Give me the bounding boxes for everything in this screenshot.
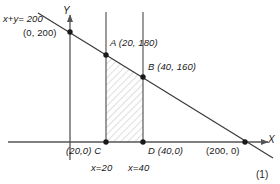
point-c	[103, 139, 108, 144]
point-b	[140, 74, 145, 79]
label-x-intercept: (200, 0)	[206, 146, 240, 156]
x-axis-label: X	[268, 135, 275, 145]
equation-label: x+y= 200	[3, 14, 43, 24]
label-point-a: A (20, 180)	[110, 38, 158, 48]
label-point-d: D (40,0)	[148, 146, 183, 156]
y-axis-label: Y	[63, 6, 70, 16]
label-y-intercept: (0, 200)	[23, 28, 57, 38]
figure-caption: (1)	[256, 170, 268, 180]
point-y-intercept	[67, 29, 72, 34]
graph-figure: X Y x+y= 200 (0, 200) A (20, 180) B (40,…	[0, 0, 280, 184]
label-point-b: B (40, 160)	[148, 62, 196, 72]
label-line-x40: x=40	[128, 163, 149, 173]
point-a	[103, 52, 108, 57]
point-d	[140, 139, 145, 144]
label-line-x20: x=20	[91, 163, 112, 173]
point-x-intercept	[242, 139, 247, 144]
constraint-line	[38, 13, 273, 158]
shaded-region	[106, 55, 143, 142]
label-point-c: (20,0) C	[66, 146, 101, 156]
